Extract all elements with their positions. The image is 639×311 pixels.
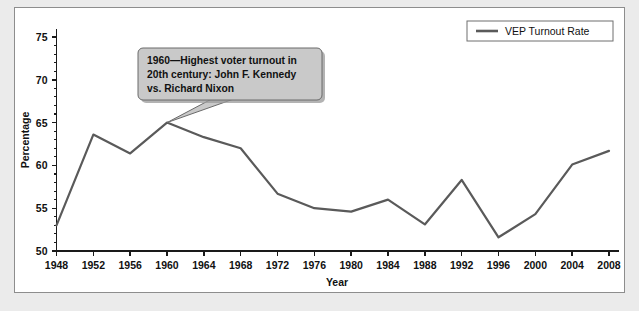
x-tick-label-1988: 1988 xyxy=(413,259,437,271)
y-tick-label-65: 65 xyxy=(36,117,48,129)
legend-label-vep-turnout-rate: VEP Turnout Rate xyxy=(505,25,590,37)
callout-line-1: 1960—Highest voter turnout in xyxy=(147,55,297,66)
x-tick-label-1960: 1960 xyxy=(155,259,179,271)
x-tick-label-1980: 1980 xyxy=(339,259,363,271)
x-tick-label-1976: 1976 xyxy=(303,259,327,271)
x-tick-label-1984: 1984 xyxy=(376,259,400,271)
x-tick-label-1964: 1964 xyxy=(192,259,216,271)
x-tick-label-2008: 2008 xyxy=(597,259,621,271)
chart-figure: 505560657075 194819521956196019641968197… xyxy=(14,7,625,293)
series-line-vep-turnout-rate xyxy=(57,123,610,238)
x-tick-label-2000: 2000 xyxy=(524,259,548,271)
legend[interactable]: VEP Turnout Rate xyxy=(467,21,613,41)
callout-line-2: 20th century: John F. Kennedy xyxy=(147,69,297,80)
y-tick-label-50: 50 xyxy=(36,245,48,257)
line-chart-svg: 505560657075 194819521956196019641968197… xyxy=(15,8,626,294)
x-tick-label-2004: 2004 xyxy=(560,259,584,271)
x-tick-label-1996: 1996 xyxy=(487,259,511,271)
x-tick-label-1968: 1968 xyxy=(229,259,253,271)
x-tick-label-1992: 1992 xyxy=(450,259,474,271)
y-tick-label-70: 70 xyxy=(36,74,48,86)
data-series-group xyxy=(57,123,610,238)
y-tick-label-55: 55 xyxy=(36,202,48,214)
x-tick-label-1948: 1948 xyxy=(45,259,69,271)
x-tick-label-1952: 1952 xyxy=(82,259,106,271)
x-tick-label-1972: 1972 xyxy=(266,259,290,271)
annotation-callout-1960: 1960—Highest voter turnout in 20th centu… xyxy=(138,48,325,123)
x-tick-label-1956: 1956 xyxy=(118,259,142,271)
callout-line-3: vs. Richard Nixon xyxy=(147,83,234,94)
y-tick-label-60: 60 xyxy=(36,159,48,171)
plot-area: 505560657075 194819521956196019641968197… xyxy=(15,8,626,294)
x-axis-tick-labels: 1948195219561960196419681972197619801984… xyxy=(45,259,621,271)
y-axis-tick-labels: 505560657075 xyxy=(36,31,48,257)
y-axis-title: Percentage xyxy=(19,112,31,169)
x-axis-title: Year xyxy=(326,276,348,288)
y-tick-label-75: 75 xyxy=(36,31,48,43)
